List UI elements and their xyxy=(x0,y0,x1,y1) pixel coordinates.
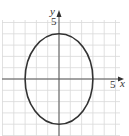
ellipse-graph: y 5 5 x xyxy=(0,0,129,136)
y-tick-label-5: 5 xyxy=(51,15,57,27)
x-tick-label-5: 5 xyxy=(110,78,116,90)
y-axis-arrow-icon xyxy=(57,10,62,17)
grid-lines xyxy=(2,20,120,136)
x-axis-label: x xyxy=(119,77,125,89)
